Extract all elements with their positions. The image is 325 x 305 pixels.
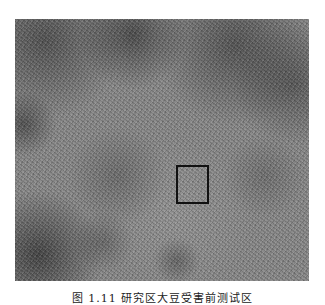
figure-caption: 图 1.11 研究区大豆受害前测试区 <box>0 289 325 305</box>
field-noise <box>15 19 309 281</box>
region-of-interest-box <box>176 165 209 204</box>
field-image <box>15 19 309 281</box>
